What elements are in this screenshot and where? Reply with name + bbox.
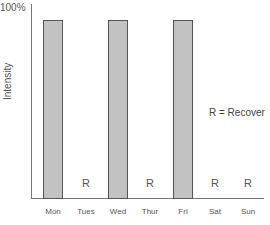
x-tick-fri: Fri <box>168 207 198 216</box>
bar-wed <box>108 20 128 199</box>
y-axis-line <box>31 4 32 199</box>
recover-mark-sat: R <box>205 177 225 189</box>
recover-mark-thur: R <box>140 177 160 189</box>
x-tick-mon: Mon <box>38 207 68 216</box>
y-axis-max-label: 100% <box>0 2 26 13</box>
recover-mark-tues: R <box>76 177 96 189</box>
bar-mon <box>43 20 63 199</box>
legend-text: R = Recover <box>209 107 265 118</box>
y-axis-title: Intensity <box>2 63 13 100</box>
x-tick-tues: Tues <box>71 207 101 216</box>
recover-mark-sun: R <box>238 177 258 189</box>
x-tick-thur: Thur <box>135 207 165 216</box>
x-tick-sun: Sun <box>233 207 263 216</box>
x-tick-sat: Sat <box>200 207 230 216</box>
x-tick-wed: Wed <box>103 207 133 216</box>
x-axis-line <box>31 198 264 199</box>
bar-fri <box>173 20 193 199</box>
